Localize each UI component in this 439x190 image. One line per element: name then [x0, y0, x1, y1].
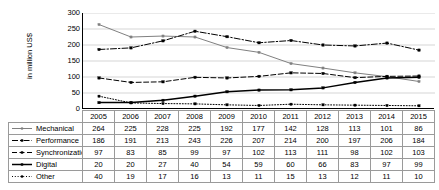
data-point [258, 51, 260, 53]
cell-synchronization-2015: 103 [403, 147, 435, 159]
data-point [386, 104, 388, 106]
data-point [226, 91, 228, 93]
data-point [226, 104, 228, 106]
data-point [130, 81, 132, 83]
cell-other-2011: 15 [275, 171, 307, 183]
series-symbol-icon [11, 136, 33, 145]
data-table: 2005200620072008200920102011201220132014… [8, 110, 435, 183]
data-point [322, 87, 324, 89]
cell-synchronization-2014: 102 [371, 147, 403, 159]
series-label: Digital [36, 160, 57, 169]
series-synchronization [98, 72, 420, 84]
cell-mechanical-2011: 142 [275, 123, 307, 135]
y-tick-100: 100 [40, 73, 80, 81]
y-tick-50: 50 [40, 89, 80, 97]
column-header-2010: 2010 [243, 111, 275, 123]
cell-performance-2013: 197 [339, 135, 371, 147]
legend-row-digital: Digital [9, 159, 83, 171]
column-header-2005: 2005 [83, 111, 115, 123]
table-row: Synchronization9783859997102113111981021… [9, 147, 435, 159]
cell-other-2007: 17 [147, 171, 179, 183]
data-point [354, 72, 356, 74]
data-point [98, 48, 100, 50]
data-point [386, 77, 388, 79]
data-point [386, 42, 388, 44]
table-body: Mechanical264225228225192177142128113101… [9, 123, 435, 183]
data-point [354, 76, 356, 78]
legend-symbol-icon [11, 124, 33, 133]
y-tick-250: 250 [40, 25, 80, 33]
data-point [162, 102, 164, 104]
data-point [98, 23, 100, 25]
column-header-2009: 2009 [211, 111, 243, 123]
cell-other-2013: 12 [339, 171, 371, 183]
cell-synchronization-2006: 83 [115, 147, 147, 159]
series-symbol-icon [11, 172, 33, 181]
data-point [194, 103, 196, 105]
series-performance [98, 30, 420, 51]
cell-other-2009: 13 [211, 171, 243, 183]
series-symbol-icon [11, 160, 33, 169]
column-header-2008: 2008 [179, 111, 211, 123]
data-point [322, 104, 324, 106]
column-header-2012: 2012 [307, 111, 339, 123]
cell-other-2015: 10 [403, 171, 435, 183]
data-point [226, 77, 228, 79]
data-point [322, 67, 324, 69]
data-point [322, 72, 324, 74]
cell-mechanical-2009: 192 [211, 123, 243, 135]
data-point [290, 89, 292, 91]
legend-row-synchronization: Synchronization [9, 147, 83, 159]
cell-performance-2011: 214 [275, 135, 307, 147]
cell-digital-2014: 97 [371, 159, 403, 171]
cell-mechanical-2008: 225 [179, 123, 211, 135]
data-point [322, 44, 324, 46]
legend-symbol-icon [11, 148, 33, 157]
cell-performance-2015: 184 [403, 135, 435, 147]
series-canvas [83, 13, 435, 109]
cell-digital-2005: 20 [83, 159, 115, 171]
series-label: Mechanical [36, 124, 74, 133]
column-header-2011: 2011 [275, 111, 307, 123]
table-row: Mechanical264225228225192177142128113101… [9, 123, 435, 135]
cell-digital-2012: 66 [307, 159, 339, 171]
data-point [162, 40, 164, 42]
cell-synchronization-2009: 97 [211, 147, 243, 159]
data-point [418, 76, 420, 78]
data-point [194, 95, 196, 97]
data-point [418, 80, 420, 82]
cell-mechanical-2013: 113 [339, 123, 371, 135]
data-point [162, 99, 164, 101]
y-tick-200: 200 [40, 41, 80, 49]
data-table-region: 2005200620072008200920102011201220132014… [8, 110, 435, 186]
cell-digital-2007: 27 [147, 159, 179, 171]
cell-synchronization-2007: 85 [147, 147, 179, 159]
y-axis-tick-labels: 050100150200250300 [38, 0, 80, 112]
cell-synchronization-2011: 113 [275, 147, 307, 159]
data-point [258, 104, 260, 106]
data-point [258, 42, 260, 44]
cell-mechanical-2006: 225 [115, 123, 147, 135]
data-point [290, 62, 292, 64]
table-row: Performance18619121324322620721420019720… [9, 135, 435, 147]
y-tick-300: 300 [40, 9, 80, 17]
chart-figure: in million US$ 050100150200250300 200520… [0, 0, 439, 190]
cell-performance-2014: 206 [371, 135, 403, 147]
cell-performance-2007: 213 [147, 135, 179, 147]
cell-performance-2009: 226 [211, 135, 243, 147]
cell-mechanical-2007: 228 [147, 123, 179, 135]
cell-performance-2008: 243 [179, 135, 211, 147]
cell-performance-2012: 200 [307, 135, 339, 147]
cell-digital-2009: 54 [211, 159, 243, 171]
legend-symbol-icon [11, 160, 33, 169]
legend-symbol-icon [11, 136, 33, 145]
data-point [418, 105, 420, 107]
plot-area [82, 13, 434, 109]
data-point [194, 76, 196, 78]
cell-other-2008: 16 [179, 171, 211, 183]
legend-row-performance: Performance [9, 135, 83, 147]
cell-digital-2006: 20 [115, 159, 147, 171]
legend-symbol-icon [11, 172, 33, 181]
cell-digital-2013: 83 [339, 159, 371, 171]
cell-synchronization-2005: 97 [83, 147, 115, 159]
